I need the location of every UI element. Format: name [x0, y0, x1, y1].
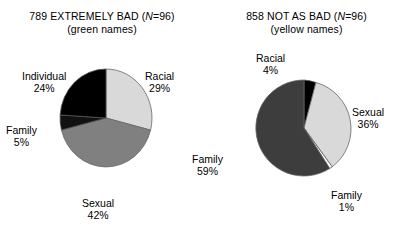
left-label-individual-name: Individual — [22, 70, 66, 82]
left-slice-individual — [60, 69, 106, 118]
left-label-family-name: Family — [6, 124, 37, 136]
right-label-family-small-pct: 1% — [331, 201, 362, 213]
right-label-family-large-name: Family — [192, 153, 223, 165]
left-pie-svg — [58, 68, 154, 168]
left-label-family: Family 5% — [6, 124, 37, 148]
left-chart-title-block: 789 EXTREMELY BAD (N=96) (green names) — [0, 10, 204, 36]
chart-panel-not-as-bad: 858 NOT AS BAD (N=96) (yellow names) Rac… — [204, 0, 409, 241]
left-title-prefix: 789 EXTREMELY BAD ( — [29, 10, 145, 22]
pie-chart-figure: 789 EXTREMELY BAD (N=96) (green names) I… — [0, 0, 409, 241]
right-label-racial: Racial 4% — [256, 52, 285, 76]
right-label-family-small-name: Family — [331, 189, 362, 201]
right-title-suffix: =96) — [345, 10, 367, 22]
left-label-sexual-pct: 42% — [82, 209, 114, 221]
left-label-individual: Individual 24% — [22, 70, 66, 94]
right-pie-svg — [254, 78, 354, 178]
right-label-racial-pct: 4% — [256, 64, 285, 76]
left-title-suffix: =96) — [153, 10, 175, 22]
right-label-family-large-pct: 59% — [192, 165, 223, 177]
right-chart-title-block: 858 NOT AS BAD (N=96) (yellow names) — [204, 10, 409, 36]
left-pie-graphic — [58, 68, 154, 168]
right-label-sexual-pct: 36% — [352, 118, 384, 130]
right-title-prefix: 858 NOT AS BAD ( — [246, 10, 337, 22]
right-chart-subtitle: (yellow names) — [204, 23, 409, 36]
left-chart-title: 789 EXTREMELY BAD (N=96) — [0, 10, 204, 23]
right-label-racial-name: Racial — [256, 52, 285, 64]
left-label-sexual: Sexual 42% — [82, 197, 114, 221]
left-chart-subtitle: (green names) — [0, 23, 204, 36]
left-label-racial-name: Racial — [145, 70, 174, 82]
right-label-sexual-name: Sexual — [352, 106, 384, 118]
left-label-family-pct: 5% — [6, 136, 37, 148]
left-label-racial-pct: 29% — [145, 82, 174, 94]
left-label-sexual-name: Sexual — [82, 197, 114, 209]
left-label-individual-pct: 24% — [22, 82, 66, 94]
right-title-italic-n: N — [337, 10, 345, 22]
left-title-italic-n: N — [145, 10, 153, 22]
right-pie-graphic — [254, 78, 354, 178]
right-label-sexual: Sexual 36% — [352, 106, 384, 130]
chart-panel-extremely-bad: 789 EXTREMELY BAD (N=96) (green names) I… — [0, 0, 204, 241]
left-label-racial: Racial 29% — [145, 70, 174, 94]
right-chart-title: 858 NOT AS BAD (N=96) — [204, 10, 409, 23]
right-label-family-small: Family 1% — [331, 189, 362, 213]
right-label-family-large: Family 59% — [192, 153, 223, 177]
